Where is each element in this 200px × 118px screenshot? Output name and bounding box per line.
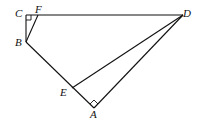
segment-BF xyxy=(26,15,38,42)
label-F: F xyxy=(34,3,42,15)
label-A: A xyxy=(89,108,97,118)
segment-BA xyxy=(26,42,94,108)
label-C: C xyxy=(15,7,23,19)
segment-AD xyxy=(94,15,183,108)
right-angle-mark-A xyxy=(90,100,98,104)
label-E: E xyxy=(59,86,67,98)
label-D: D xyxy=(182,7,191,19)
segment-ED xyxy=(72,15,183,88)
label-B: B xyxy=(15,36,22,48)
right-angle-mark-C xyxy=(26,15,31,20)
geometry-diagram: C F D B E A xyxy=(0,0,200,118)
